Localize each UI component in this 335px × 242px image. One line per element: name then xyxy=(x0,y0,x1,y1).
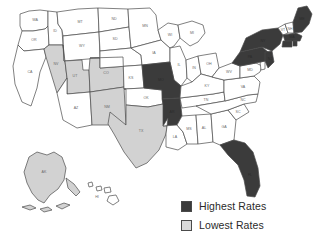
map-legend: Highest Rates Lowest Rates xyxy=(181,197,301,235)
state-HI-kauai xyxy=(88,182,93,187)
us-choropleth-map: WA OR ID CA NV MT WY UT CO AZ NM ND SD N… xyxy=(0,0,335,242)
state-NM[interactable] xyxy=(90,87,126,125)
legend-swatch-lowest-icon xyxy=(181,220,192,231)
legend-swatch-highest-icon xyxy=(181,201,192,212)
state-DE[interactable] xyxy=(260,61,265,70)
legend-item-highest: Highest Rates xyxy=(181,197,301,216)
state-CA[interactable] xyxy=(13,45,46,106)
state-AK-aleutians-2 xyxy=(40,207,52,212)
state-AK[interactable] xyxy=(24,152,66,203)
legend-label-lowest: Lowest Rates xyxy=(199,220,264,231)
state-MI[interactable] xyxy=(178,21,205,46)
state-CT[interactable] xyxy=(282,41,292,47)
state-AL[interactable] xyxy=(196,114,213,144)
state-ME[interactable] xyxy=(293,6,312,33)
legend-label-highest: Highest Rates xyxy=(199,201,266,212)
state-MT[interactable] xyxy=(57,8,99,36)
state-OK[interactable] xyxy=(124,88,163,107)
state-WA[interactable] xyxy=(20,10,48,31)
state-AK-aleutians-1 xyxy=(22,205,36,210)
state-label-HI: HI xyxy=(95,195,99,199)
state-RI[interactable] xyxy=(293,41,297,46)
state-NJ[interactable] xyxy=(265,51,274,68)
legend-item-lowest: Lowest Rates xyxy=(181,216,301,235)
state-FL[interactable] xyxy=(220,140,260,197)
state-AK-aleutians-3 xyxy=(56,203,70,209)
state-HI-bigisland xyxy=(107,195,119,205)
state-HI-oahu xyxy=(96,186,102,191)
state-HI-maui xyxy=(104,187,111,193)
state-AK-panhandle xyxy=(66,178,80,196)
state-WY[interactable] xyxy=(63,32,100,61)
